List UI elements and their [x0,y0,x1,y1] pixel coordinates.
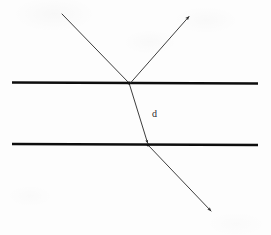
ray-paths [62,14,211,211]
reflected-ray [130,17,189,84]
incident-ray [62,14,130,84]
diagram-canvas: d [0,0,271,235]
slab-boundaries [12,83,258,146]
emergent-ray [148,145,211,211]
refracted-ray-in-slab [129,84,147,144]
upper-intersection-point [128,82,131,85]
refraction-diagram: d [0,0,271,235]
slab-thickness-label: d [152,108,157,119]
lower-intersection-point [147,144,150,147]
upper-boundary-line [12,83,258,84]
lower-boundary-line [12,144,258,145]
